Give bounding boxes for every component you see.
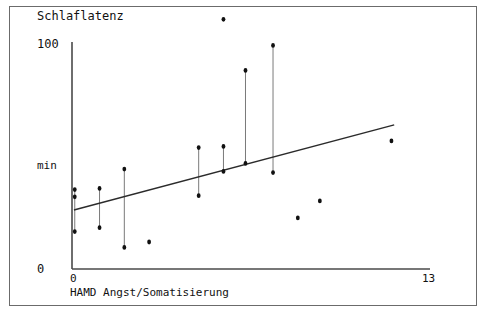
data-point — [98, 225, 102, 230]
data-point — [222, 169, 226, 174]
x-axis-tick-min: 0 — [70, 272, 77, 285]
x-axis-tick-max: 13 — [422, 272, 435, 285]
regression-line — [74, 125, 394, 210]
y-axis-tick-max: 100 — [37, 37, 59, 51]
connector-lines-group — [75, 45, 273, 247]
data-point — [271, 43, 275, 48]
y-axis-tick-min: 0 — [37, 262, 44, 276]
data-point — [271, 170, 275, 175]
data-point — [222, 144, 226, 149]
data-point — [197, 145, 201, 150]
data-point — [98, 186, 102, 191]
data-point — [73, 187, 77, 192]
data-point — [147, 240, 151, 245]
data-point — [390, 139, 394, 144]
y-axis-label: min — [37, 159, 57, 172]
data-point — [296, 216, 300, 221]
regression-trend-line — [74, 125, 394, 210]
data-point — [244, 161, 248, 166]
scatter-plot-canvas — [0, 0, 488, 316]
chart-title: Schlaflatenz — [37, 9, 124, 23]
data-point — [122, 167, 126, 172]
data-point — [197, 193, 201, 198]
data-point — [244, 68, 248, 73]
x-axis-label: HAMD Angst/Somatisierung — [70, 286, 229, 299]
data-point — [122, 245, 126, 250]
data-points-group — [73, 17, 393, 250]
data-point — [73, 229, 77, 234]
screenshot-root: Schlaflatenz 100 min 0 0 13 HAMD Angst/S… — [0, 0, 488, 316]
axes-group — [72, 42, 430, 269]
data-point — [222, 17, 226, 22]
data-point — [318, 199, 322, 204]
data-point — [73, 194, 77, 199]
